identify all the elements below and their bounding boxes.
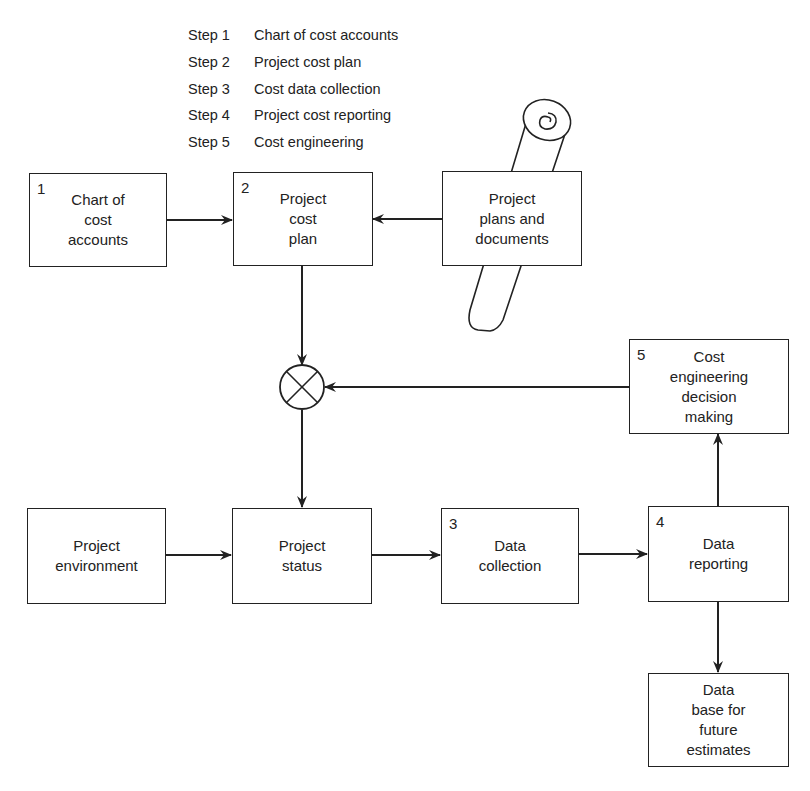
node-database-future-estimates: Data base for future estimates: [648, 673, 789, 767]
node-data-reporting: 4 Data reporting: [648, 506, 789, 602]
node-project-environment: Project environment: [27, 508, 166, 604]
comparator-icon: [280, 365, 324, 409]
node-project-cost-plan: 2 Project cost plan: [233, 172, 373, 266]
node-chart-of-cost-accounts: 1 Chart of cost accounts: [29, 173, 167, 267]
node-project-status: Project status: [232, 508, 372, 604]
node-cost-engineering-decision-making: 5 Cost engineering decision making: [629, 339, 789, 434]
node-data-collection: 3 Data collection: [441, 508, 579, 604]
node-project-plans-and-documents: Project plans and documents: [442, 171, 582, 266]
